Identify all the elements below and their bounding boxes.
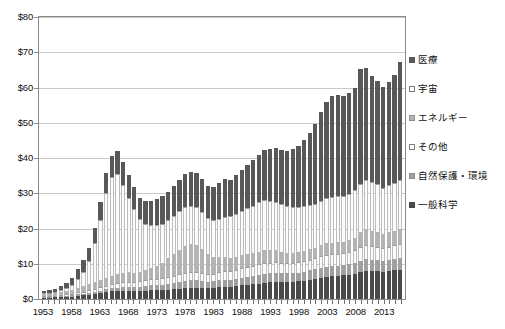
bar-segment-energy — [324, 243, 328, 254]
stacked-bar[interactable] — [291, 149, 295, 299]
legend-item[interactable]: エネルギー — [409, 113, 505, 123]
legend-item[interactable]: 医療 — [409, 55, 505, 65]
stacked-bar[interactable] — [245, 165, 249, 299]
stacked-bar[interactable] — [138, 198, 142, 299]
stacked-bar[interactable] — [296, 146, 300, 299]
stacked-bar[interactable] — [42, 291, 46, 299]
stacked-bar[interactable] — [70, 278, 74, 299]
y-axis-tick-label: $60 — [18, 83, 33, 93]
stacked-bar[interactable] — [200, 179, 204, 299]
stacked-bar[interactable] — [381, 87, 385, 299]
stacked-bar[interactable] — [358, 69, 362, 299]
stacked-bar[interactable] — [104, 173, 108, 299]
stacked-bar[interactable] — [98, 202, 102, 299]
bar-segment-energy — [291, 253, 295, 263]
stacked-bar[interactable] — [121, 162, 125, 299]
stacked-bar[interactable] — [189, 172, 193, 299]
bar-segment-medical — [268, 149, 272, 201]
stacked-bar[interactable] — [313, 124, 317, 299]
bar-segment-energy — [330, 243, 334, 254]
legend-item[interactable]: 自然保護・環境 — [409, 171, 505, 181]
bar-segment-energy — [183, 246, 187, 273]
bar-segment-environment — [257, 275, 261, 284]
stacked-bar[interactable] — [353, 88, 357, 299]
legend-item[interactable]: その他 — [409, 142, 505, 152]
bar-segment-other — [375, 247, 379, 260]
stacked-bar[interactable] — [336, 95, 340, 299]
stacked-bar[interactable] — [177, 180, 181, 299]
stacked-bar[interactable] — [268, 149, 272, 299]
stacked-bar[interactable] — [59, 286, 63, 299]
bar-segment-medical — [217, 183, 221, 218]
stacked-bar[interactable] — [211, 187, 215, 299]
stacked-bar[interactable] — [324, 102, 328, 299]
bar-segment-medical — [200, 179, 204, 212]
stacked-bar[interactable] — [279, 150, 283, 299]
stacked-bar[interactable] — [364, 68, 368, 299]
stacked-bar[interactable] — [347, 93, 351, 299]
stacked-bar[interactable] — [319, 112, 323, 299]
bar-segment-medical — [324, 102, 328, 198]
stacked-bar[interactable] — [234, 175, 238, 299]
stacked-bar[interactable] — [285, 151, 289, 299]
bar-segment-general-science — [87, 295, 91, 299]
stacked-bar[interactable] — [375, 81, 379, 300]
bar-segment-energy — [392, 231, 396, 246]
stacked-bar[interactable] — [172, 186, 176, 299]
bar-segment-other — [172, 276, 176, 283]
stacked-bar[interactable] — [115, 151, 119, 299]
bar-segment-environment — [324, 267, 328, 277]
legend-item[interactable]: 宇宙 — [409, 84, 505, 94]
stacked-bar[interactable] — [387, 82, 391, 299]
stacked-bar[interactable] — [240, 170, 244, 299]
bar-segment-general-science — [341, 275, 345, 299]
stacked-bar[interactable] — [370, 76, 374, 299]
bar-segment-medical — [234, 175, 238, 214]
bar-segment-energy — [285, 253, 289, 264]
bar-segment-general-science — [121, 291, 125, 299]
stacked-bar[interactable] — [274, 148, 278, 299]
stacked-bar[interactable] — [155, 199, 159, 299]
stacked-bar[interactable] — [398, 62, 402, 299]
stacked-bar[interactable] — [87, 248, 91, 299]
stacked-bar[interactable] — [93, 228, 97, 299]
x-axis-tick-mark — [310, 300, 311, 304]
bar-segment-space — [155, 225, 159, 266]
stacked-bar[interactable] — [257, 155, 261, 299]
stacked-bar[interactable] — [53, 289, 57, 299]
bar-segment-space — [370, 182, 374, 231]
stacked-bar[interactable] — [149, 201, 153, 299]
stacked-bar[interactable] — [217, 183, 221, 299]
stacked-bar[interactable] — [81, 260, 85, 299]
stacked-bar[interactable] — [183, 174, 187, 299]
bar-segment-general-science — [285, 282, 289, 299]
stacked-bar[interactable] — [160, 196, 164, 299]
stacked-bar[interactable] — [47, 290, 51, 299]
stacked-bar[interactable] — [251, 160, 255, 299]
legend-item[interactable]: 一般科学 — [409, 200, 505, 210]
bar-segment-space — [353, 190, 357, 237]
stacked-bar[interactable] — [223, 179, 227, 299]
stacked-bar[interactable] — [194, 173, 198, 299]
stacked-bar[interactable] — [110, 156, 114, 299]
stacked-bar[interactable] — [64, 283, 68, 299]
stacked-bar[interactable] — [206, 186, 210, 299]
stacked-bar[interactable] — [76, 269, 80, 299]
stacked-bar[interactable] — [143, 201, 147, 299]
stacked-bar[interactable] — [132, 187, 136, 299]
stacked-bar[interactable] — [392, 75, 396, 299]
bar-segment-environment — [245, 277, 249, 285]
stacked-bar[interactable] — [341, 96, 345, 299]
bar-segment-medical — [330, 96, 334, 197]
bar-segment-general-science — [189, 288, 193, 299]
stacked-bar[interactable] — [166, 192, 170, 299]
bar-segment-space — [240, 211, 244, 255]
stacked-bar[interactable] — [302, 140, 306, 299]
stacked-bar[interactable] — [262, 150, 266, 299]
stacked-bar[interactable] — [308, 133, 312, 299]
bar-segment-other — [387, 247, 391, 260]
stacked-bar[interactable] — [127, 175, 131, 299]
bar-segment-space — [166, 220, 170, 259]
stacked-bar[interactable] — [330, 96, 334, 299]
stacked-bar[interactable] — [228, 180, 232, 299]
